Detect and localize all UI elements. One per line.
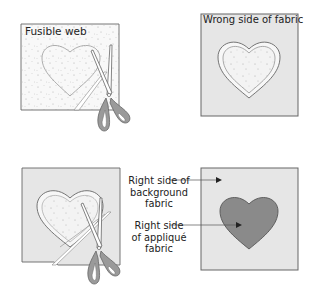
panel-fusible-web: [21, 24, 130, 131]
label-fusible-web: Fusible web: [25, 25, 87, 37]
diagram-canvas: [0, 0, 312, 302]
callout-background-fabric: Right side of background fabric: [126, 175, 192, 210]
callout-line: fabric: [126, 198, 192, 210]
callout-line: of appliqué: [126, 232, 192, 244]
callout-line: fabric: [126, 243, 192, 255]
panel-cut-applique: [22, 168, 120, 284]
panel-wrong-side: [201, 14, 298, 116]
callout-line: background: [126, 187, 192, 199]
callout-line: Right side of: [126, 175, 192, 187]
label-wrong-side-of-fabric: Wrong side of fabric: [203, 14, 303, 25]
callout-line: Right side: [126, 220, 192, 232]
callout-applique-fabric: Right side of appliqué fabric: [126, 220, 192, 255]
